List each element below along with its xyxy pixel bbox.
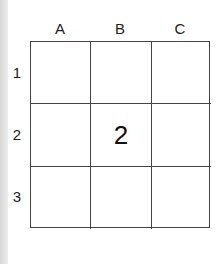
column-label-c: C <box>150 20 210 37</box>
cell-a1[interactable] <box>31 42 91 104</box>
cell-b1[interactable] <box>91 42 152 104</box>
left-edge-strip <box>0 0 8 264</box>
column-label-b: B <box>90 20 150 37</box>
cell-c1[interactable] <box>152 42 211 104</box>
cell-b3[interactable] <box>91 167 152 229</box>
column-label-a: A <box>30 20 90 37</box>
cell-b2[interactable]: 2 <box>91 104 152 167</box>
puzzle-grid: 2 <box>30 41 210 228</box>
cell-a3[interactable] <box>31 167 91 229</box>
cell-a2[interactable] <box>31 104 91 167</box>
row-label-1: 1 <box>10 64 24 81</box>
row-label-3: 3 <box>10 188 24 205</box>
row-label-2: 2 <box>10 126 24 143</box>
cell-c2[interactable] <box>152 104 211 167</box>
cell-c3[interactable] <box>152 167 211 229</box>
